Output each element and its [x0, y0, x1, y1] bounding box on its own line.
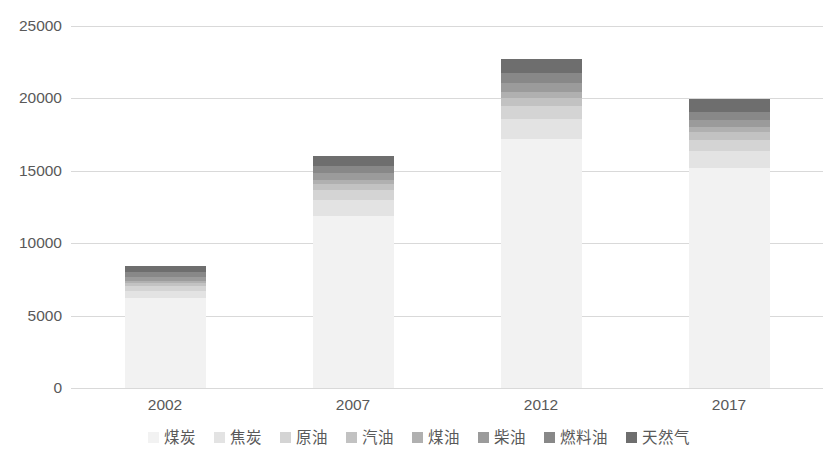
legend-label: 原油: [296, 430, 328, 446]
y-axis: 0500010000150002000025000: [0, 0, 62, 420]
legend-swatch-icon: [214, 432, 225, 443]
legend-label: 焦炭: [230, 430, 262, 446]
bar-segment[interactable]: [125, 277, 206, 281]
bar-segment[interactable]: [501, 83, 582, 92]
bar-segment[interactable]: [689, 151, 770, 168]
bar-segment[interactable]: [313, 190, 394, 200]
bar-segment[interactable]: [501, 98, 582, 106]
legend-item-焦炭[interactable]: 焦炭: [214, 430, 262, 446]
legend-swatch-icon: [412, 432, 423, 443]
y-tick-label: 20000: [0, 91, 62, 107]
legend-label: 燃料油: [560, 430, 608, 446]
bar-segment[interactable]: [125, 266, 206, 272]
legend-item-煤油[interactable]: 煤油: [412, 430, 460, 446]
bar-segment[interactable]: [501, 59, 582, 73]
bar-segment[interactable]: [125, 298, 206, 388]
bar-segment[interactable]: [313, 156, 394, 166]
bar-segment[interactable]: [313, 216, 394, 388]
y-tick-label: 0: [0, 380, 62, 396]
bar-segment[interactable]: [313, 184, 394, 190]
bar-segment[interactable]: [313, 200, 394, 216]
plot-area: [71, 26, 823, 388]
bar-segment[interactable]: [501, 73, 582, 83]
y-tick-label: 5000: [0, 308, 62, 324]
bar-segment[interactable]: [125, 283, 206, 286]
legend-swatch-icon: [346, 432, 357, 443]
bar-group-2007[interactable]: [313, 26, 394, 388]
legend-label: 天然气: [642, 430, 690, 446]
y-tick-label: 10000: [0, 235, 62, 251]
bar-segment[interactable]: [501, 139, 582, 388]
bar-segment[interactable]: [313, 166, 394, 173]
legend-item-原油[interactable]: 原油: [280, 430, 328, 446]
y-tick-label: 25000: [0, 18, 62, 34]
legend-label: 煤炭: [164, 430, 196, 446]
bar-group-2017[interactable]: [689, 26, 770, 388]
bar-segment[interactable]: [689, 132, 770, 139]
chart-legend: 煤炭焦炭原油汽油煤油柴油燃料油天然气: [0, 430, 837, 446]
x-axis: 2002200720122017: [71, 396, 823, 420]
legend-item-煤炭[interactable]: 煤炭: [148, 430, 196, 446]
legend-item-柴油[interactable]: 柴油: [478, 430, 526, 446]
legend-item-汽油[interactable]: 汽油: [346, 430, 394, 446]
legend-item-天然气[interactable]: 天然气: [626, 430, 690, 446]
bar-segment[interactable]: [125, 281, 206, 283]
legend-item-燃料油[interactable]: 燃料油: [544, 430, 608, 446]
bar-segment[interactable]: [313, 180, 394, 184]
legend-swatch-icon: [626, 432, 637, 443]
bar-segment[interactable]: [125, 286, 206, 291]
bar-group-2012[interactable]: [501, 26, 582, 388]
bar-segment[interactable]: [689, 168, 770, 388]
bar-segment[interactable]: [689, 120, 770, 128]
legend-swatch-icon: [544, 432, 555, 443]
legend-swatch-icon: [280, 432, 291, 443]
x-tick-label-2012: 2012: [524, 396, 558, 415]
bar-segment[interactable]: [125, 272, 206, 277]
bar-segment[interactable]: [501, 106, 582, 119]
bar-segment[interactable]: [689, 127, 770, 132]
y-tick-label: 15000: [0, 163, 62, 179]
bar-segment[interactable]: [689, 140, 770, 151]
bar-segment[interactable]: [501, 119, 582, 139]
x-tick-label-2002: 2002: [148, 396, 182, 415]
legend-swatch-icon: [148, 432, 159, 443]
legend-label: 汽油: [362, 430, 394, 446]
x-tick-label-2007: 2007: [336, 396, 370, 415]
legend-label: 柴油: [494, 430, 526, 446]
stacked-bar-chart: 0500010000150002000025000 20022007201220…: [0, 0, 837, 459]
bar-segment[interactable]: [501, 92, 582, 98]
x-tick-label-2017: 2017: [712, 396, 746, 415]
gridline-0: [71, 388, 823, 389]
legend-swatch-icon: [478, 432, 489, 443]
bar-segment[interactable]: [689, 99, 770, 112]
bar-segment[interactable]: [313, 173, 394, 180]
bar-segment[interactable]: [125, 291, 206, 298]
bar-segment[interactable]: [689, 112, 770, 120]
legend-label: 煤油: [428, 430, 460, 446]
bar-group-2002[interactable]: [125, 26, 206, 388]
